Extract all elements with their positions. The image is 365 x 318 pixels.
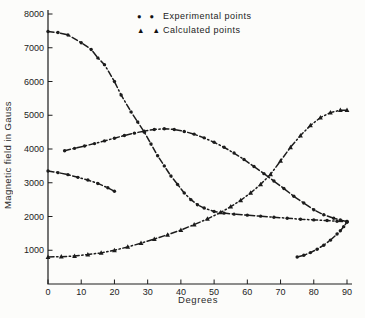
marker-circle-exp-upper-descending <box>66 33 69 36</box>
marker-circle-exp-upper-descending <box>56 31 59 34</box>
calculated-points-icon: ▲ ▲ <box>137 26 163 35</box>
marker-circle-exp-upper-descending <box>96 56 99 59</box>
legend: ● ● Experimental points ▲ ▲ Calculated p… <box>137 9 252 37</box>
marker-circle-exp-hump <box>232 151 235 154</box>
marker-circle-exp-upper-descending <box>286 216 289 219</box>
marker-circle-exp-hump <box>242 158 245 161</box>
curve-exp-upper-descending <box>48 32 347 222</box>
marker-circle-exp-hump <box>272 179 275 182</box>
marker-circle-exp-hook-lower-right <box>345 221 348 224</box>
marker-circle-exp-hump <box>322 213 325 216</box>
marker-circle-exp-hump <box>183 130 186 133</box>
y-tick-label: 1000 <box>24 245 44 255</box>
marker-circle-exp-upper-descending <box>163 164 166 167</box>
marker-circle-exp-lower-left <box>113 189 116 192</box>
marker-circle-exp-hump <box>302 201 305 204</box>
marker-circle-exp-upper-descending <box>129 110 132 113</box>
y-tick-label: 4000 <box>24 144 44 154</box>
experimental-points-icon: ● ● <box>137 12 163 21</box>
legend-label-experimental: Experimental points <box>163 11 252 21</box>
marker-circle-exp-hook-lower-right <box>335 232 338 235</box>
marker-circle-exp-hook-lower-right <box>295 255 298 258</box>
marker-circle-exp-hump <box>123 134 126 137</box>
curve-exp-hook-lower-right <box>297 222 347 257</box>
marker-circle-exp-hook-lower-right <box>302 254 305 257</box>
marker-circle-exp-hump <box>292 195 295 198</box>
marker-circle-exp-upper-descending <box>299 218 302 221</box>
marker-circle-exp-hump <box>173 128 176 131</box>
marker-circle-exp-hump <box>83 144 86 147</box>
figure: 1000200030004000500060007000800001020304… <box>0 0 365 318</box>
marker-circle-exp-upper-descending <box>189 198 192 201</box>
marker-circle-exp-lower-left <box>76 176 79 179</box>
marker-circle-exp-hump <box>339 218 342 221</box>
marker-circle-exp-upper-descending <box>113 80 116 83</box>
marker-circle-exp-upper-descending <box>183 191 186 194</box>
marker-circle-exp-hump <box>252 165 255 168</box>
marker-circle-exp-upper-descending <box>169 174 172 177</box>
marker-circle-exp-hook-lower-right <box>309 251 312 254</box>
curve-calc-rising <box>48 110 347 257</box>
marker-circle-exp-lower-left <box>56 171 59 174</box>
marker-circle-exp-hump <box>113 137 116 140</box>
marker-circle-exp-hump <box>133 131 136 134</box>
marker-circle-exp-hump <box>262 172 265 175</box>
y-tick-label: 8000 <box>24 9 44 19</box>
marker-circle-exp-upper-descending <box>196 203 199 206</box>
marker-circle-exp-lower-left <box>106 186 109 189</box>
marker-circle-exp-lower-left <box>46 169 49 172</box>
axes <box>48 10 352 284</box>
marker-circle-exp-upper-descending <box>136 120 139 123</box>
marker-circle-exp-hump <box>222 146 225 149</box>
y-tick-label: 6000 <box>24 77 44 87</box>
marker-circle-exp-hook-lower-right <box>329 238 332 241</box>
marker-circle-exp-upper-descending <box>202 206 205 209</box>
marker-circle-exp-upper-descending <box>156 154 159 157</box>
y-tick-label: 3000 <box>24 178 44 188</box>
legend-item-calculated: ▲ ▲ Calculated points <box>137 23 252 37</box>
marker-circle-exp-hump <box>63 149 66 152</box>
marker-circle-exp-hump <box>312 208 315 211</box>
y-tick-label: 5000 <box>24 110 44 120</box>
marker-circle-exp-upper-descending <box>246 213 249 216</box>
marker-circle-exp-hump <box>202 136 205 139</box>
marker-circle-exp-hump <box>192 132 195 135</box>
marker-circle-exp-upper-descending <box>232 212 235 215</box>
marker-circle-exp-upper-descending <box>119 93 122 96</box>
marker-circle-exp-upper-descending <box>212 210 215 213</box>
marker-circle-exp-upper-descending <box>46 30 49 33</box>
marker-circle-exp-upper-descending <box>103 63 106 66</box>
marker-circle-exp-lower-left <box>86 178 89 181</box>
marker-circle-exp-hump <box>153 128 156 131</box>
marker-circle-exp-hump <box>103 139 106 142</box>
marker-circle-exp-hump <box>73 147 76 150</box>
marker-circle-exp-upper-descending <box>149 142 152 145</box>
marker-circle-exp-hump <box>212 141 215 144</box>
marker-circle-exp-lower-left <box>66 173 69 176</box>
x-axis-title: Degrees <box>48 294 348 305</box>
marker-circle-exp-upper-descending <box>89 48 92 51</box>
marker-circle-exp-upper-descending <box>80 41 83 44</box>
marker-circle-exp-hook-lower-right <box>339 229 342 232</box>
legend-item-experimental: ● ● Experimental points <box>137 9 252 23</box>
marker-circle-exp-upper-descending <box>272 215 275 218</box>
marker-circle-exp-upper-descending <box>176 183 179 186</box>
marker-circle-exp-hook-lower-right <box>322 243 325 246</box>
marker-circle-exp-upper-descending <box>259 214 262 217</box>
marker-circle-exp-hump <box>93 142 96 145</box>
marker-circle-exp-hump <box>163 127 166 130</box>
marker-circle-exp-hook-lower-right <box>342 225 345 228</box>
marker-circle-exp-hump <box>143 129 146 132</box>
marker-circle-exp-upper-descending <box>325 219 328 222</box>
marker-circle-exp-hook-lower-right <box>315 248 318 251</box>
marker-circle-exp-lower-left <box>96 182 99 185</box>
legend-label-calculated: Calculated points <box>163 25 241 35</box>
marker-circle-exp-hump <box>332 216 335 219</box>
marker-circle-exp-hump <box>282 187 285 190</box>
y-tick-label: 2000 <box>24 212 44 222</box>
marker-circle-exp-upper-descending <box>312 218 315 221</box>
y-tick-label: 7000 <box>24 43 44 53</box>
y-axis-title: Magnetic field in Gauss <box>1 40 14 270</box>
marker-circle-exp-upper-descending <box>335 220 338 223</box>
plot-area: 1000200030004000500060007000800001020304… <box>0 0 365 318</box>
